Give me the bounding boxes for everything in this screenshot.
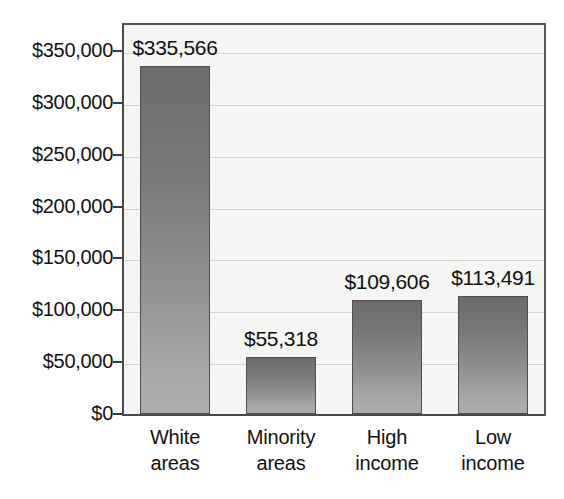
y-axis-tick-label: $150,000 <box>5 247 113 267</box>
y-axis-tick-mark <box>113 102 122 104</box>
x-axis-category-label-line: areas <box>115 450 235 476</box>
y-axis-tick-mark <box>113 50 122 52</box>
y-axis-tick-mark <box>113 257 122 259</box>
bar <box>246 357 316 414</box>
x-axis-category-label-line: income <box>327 450 447 476</box>
bars-layer <box>122 23 546 416</box>
y-axis-tick-label: $50,000 <box>5 351 113 371</box>
bar <box>140 66 210 414</box>
y-axis-tick-label: $200,000 <box>5 196 113 216</box>
bar <box>458 296 528 414</box>
x-axis-category-label-line: White <box>115 424 235 450</box>
x-axis-category-label: Minorityareas <box>221 424 341 476</box>
y-axis-tick-label: $100,000 <box>5 299 113 319</box>
x-axis-category-label-line: Low <box>433 424 553 450</box>
x-axis-category-label: Highincome <box>327 424 447 476</box>
y-axis: $0$50,000$100,000$150,000$200,000$250,00… <box>0 0 113 499</box>
y-axis-tick-mark <box>113 309 122 311</box>
y-axis-tick-mark <box>113 361 122 363</box>
y-axis-tick-mark <box>113 206 122 208</box>
bar-value-label: $113,491 <box>413 267 564 288</box>
y-axis-tick-label: $250,000 <box>5 144 113 164</box>
x-axis-category-label: Lowincome <box>433 424 553 476</box>
y-axis-tick-label: $300,000 <box>5 92 113 112</box>
x-axis-category-label-line: areas <box>221 450 341 476</box>
bar <box>352 300 422 414</box>
bar-value-label: $335,566 <box>95 37 255 58</box>
y-axis-tick-mark <box>113 413 122 415</box>
x-axis-category-label-line: High <box>327 424 447 450</box>
x-axis-category-label-line: Minority <box>221 424 341 450</box>
bar-chart: $0$50,000$100,000$150,000$200,000$250,00… <box>0 0 564 499</box>
y-axis-tick-mark <box>113 154 122 156</box>
x-axis-labels: WhiteareasMinorityareasHighincomeLowinco… <box>122 424 546 494</box>
y-axis-tick-label: $0 <box>5 403 113 423</box>
x-axis-category-label-line: income <box>433 450 553 476</box>
bar-value-label: $55,318 <box>201 328 361 349</box>
x-axis-category-label: Whiteareas <box>115 424 235 476</box>
